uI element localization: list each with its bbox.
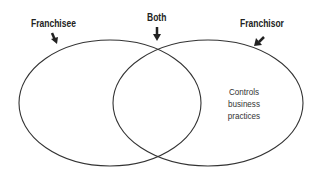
franchisor-label: Franchisor <box>240 18 284 29</box>
franchisee-label: Franchisee <box>31 18 76 29</box>
franchisee-arrow-icon <box>51 33 58 44</box>
content-line: practices <box>225 110 262 122</box>
content-line: business <box>225 98 262 110</box>
franchisor-arrow-icon <box>254 37 264 46</box>
content-line: Controls <box>225 86 262 98</box>
both-arrow-icon <box>153 27 161 41</box>
franchisor-contents: Controls business practices <box>225 86 262 122</box>
both-label: Both <box>147 12 166 23</box>
franchisor-circle <box>113 40 303 166</box>
franchisee-circle <box>19 40 201 166</box>
